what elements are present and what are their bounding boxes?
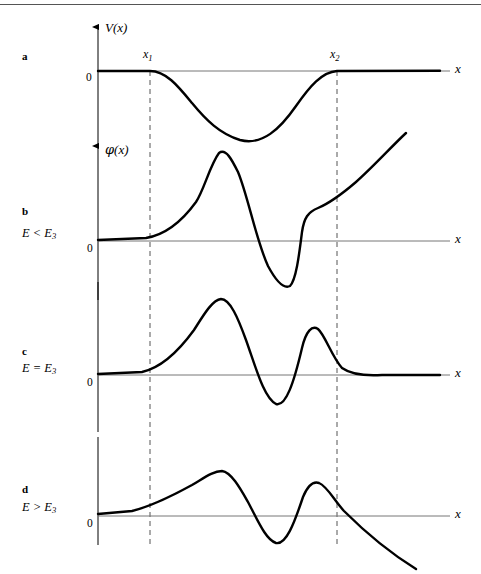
panel-c-x-axis-label: x: [455, 366, 461, 379]
panel-c-energy-subscript: 3: [52, 366, 56, 376]
panel-d-x-axis-label: x: [455, 507, 461, 520]
panel-d-axes: [98, 437, 450, 545]
panel-a-origin-label: 0: [86, 72, 92, 84]
tick-label-x2: x2: [330, 48, 340, 62]
panel-d-energy-condition: E > E3: [22, 501, 56, 515]
curve-phi-below-e3: [98, 133, 406, 287]
panel-a-x-axis-label: x: [455, 62, 461, 75]
panel-a-y-axis-symbol: V: [105, 20, 113, 35]
panel-b-energy-text: E < E: [22, 226, 52, 240]
curve-phi-equal-e3: [98, 299, 440, 404]
panel-a-axes: [98, 27, 450, 145]
panel-a-y-axis-arg: (x): [113, 20, 127, 35]
panel-b-origin-label: 0: [87, 243, 93, 255]
panel-b-y-axis-label: φ(x): [105, 143, 129, 156]
panel-letter-b: b: [22, 206, 28, 217]
figure-svg: [0, 0, 481, 574]
panel-b-y-axis-arg: (x): [114, 142, 128, 157]
panel-b-energy-condition: E < E3: [22, 227, 56, 241]
tick-x1-subscript: 1: [148, 53, 152, 63]
curve-phi-above-e3: [98, 471, 416, 569]
panel-b-y-axis-symbol: φ: [105, 142, 114, 157]
tick-label-x1: x1: [143, 48, 153, 62]
panel-c-origin-label: 0: [87, 377, 93, 389]
panel-letter-a: a: [22, 51, 28, 62]
panel-c-axes: [98, 282, 450, 432]
panel-d-energy-text: E > E: [22, 500, 52, 514]
panel-d-origin-label: 0: [87, 518, 93, 530]
panel-letter-c: c: [22, 346, 27, 357]
panel-a-y-axis-label: V(x): [105, 21, 127, 34]
tick-x2-subscript: 2: [335, 53, 339, 63]
panel-letter-d: d: [22, 484, 28, 495]
figure-container: a V(x) 0 x x1 x2 b E < E3 φ(x) 0 x c E =…: [0, 0, 481, 574]
curve-potential-v: [98, 71, 440, 141]
panel-c-energy-condition: E = E3: [22, 362, 56, 376]
panel-c-energy-text: E = E: [22, 361, 52, 375]
panel-d-energy-subscript: 3: [52, 505, 56, 515]
panel-b-x-axis-label: x: [455, 232, 461, 245]
panel-b-energy-subscript: 3: [52, 231, 56, 241]
